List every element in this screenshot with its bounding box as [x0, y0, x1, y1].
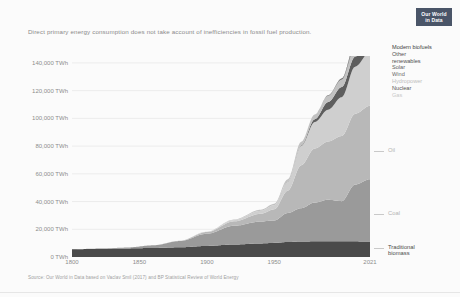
- series-label-coal: Coal: [388, 210, 400, 217]
- y-axis: 0 TWh20,000 TWh40,000 TWh60,000 TWh80,00…: [0, 56, 68, 257]
- label-leader-line: [374, 248, 384, 249]
- label-leader-line: [374, 214, 384, 215]
- y-axis-tick-label: 60,000 TWh: [35, 171, 68, 177]
- label-leader-line: [374, 151, 384, 152]
- our-world-in-data-logo: Our World in Data: [416, 8, 452, 26]
- y-axis-tick-label: 20,000 TWh: [35, 226, 68, 232]
- x-axis-tick-label: 2021: [363, 259, 376, 265]
- x-axis-tick-label: 1850: [133, 259, 146, 265]
- legend-item-nuclear: Nuclear: [392, 85, 458, 91]
- y-axis-tick-label: 80,000 TWh: [35, 143, 68, 149]
- series-label-biomass: biomass: [388, 250, 410, 257]
- y-axis-tick-label: 100,000 TWh: [32, 115, 68, 121]
- legend-item-gas: Gas: [392, 92, 458, 98]
- footer-divider: [0, 292, 460, 293]
- legend-item-wind: Wind: [392, 71, 458, 77]
- stacked-area-chart: [72, 56, 370, 257]
- legend-item-renewables: renewables: [392, 58, 458, 64]
- y-axis-tick-label: 120,000 TWh: [32, 88, 68, 94]
- x-axis-tick-label: 1800: [65, 259, 78, 265]
- legend-item-solar: Solar: [392, 64, 458, 70]
- series-label-oil: Oil: [388, 147, 395, 154]
- chart-subtitle: Direct primary energy consumption does n…: [28, 28, 312, 35]
- legend-item-hydropower: Hydropower: [392, 78, 458, 84]
- y-axis-tick-label: 40,000 TWh: [35, 199, 68, 205]
- legend-item-other: Other: [392, 51, 458, 57]
- x-axis-tick-label: 1950: [268, 259, 281, 265]
- logo-line-2: in Data: [416, 17, 452, 23]
- chart-canvas: Our World in Data Direct primary energy …: [0, 0, 460, 297]
- x-axis-tick-label: 1900: [200, 259, 213, 265]
- y-axis-tick-label: 140,000 TWh: [32, 60, 68, 66]
- source-note: Source: Our World in Data based on Vacla…: [28, 275, 239, 280]
- legend-item-modern-biofuels: Modern biofuels: [392, 44, 458, 50]
- x-axis: 18001850190019502021: [72, 259, 372, 271]
- chart-legend: Modern biofuelsOtherrenewablesSolarWindH…: [392, 44, 458, 98]
- plot-area: [72, 56, 370, 257]
